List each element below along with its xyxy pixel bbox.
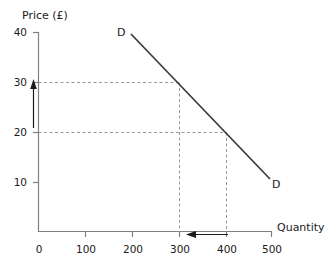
x-axis-title: Quantity xyxy=(277,221,325,234)
y-tick-label-10: 10 xyxy=(5,176,27,188)
x-tick-label-200: 200 xyxy=(118,243,148,255)
y-tick-label-40: 40 xyxy=(5,26,27,38)
x-tick-label-500: 500 xyxy=(257,243,287,255)
y-tick-label-30: 30 xyxy=(5,76,27,88)
demand-curve-label-top: D xyxy=(117,26,125,39)
demand-curve-label-bottom: D xyxy=(272,178,280,191)
x-tick-label-0: 0 xyxy=(24,243,54,255)
x-tick-label-400: 400 xyxy=(212,243,242,255)
x-tick-label-100: 100 xyxy=(71,243,101,255)
y-axis-title: Price (£) xyxy=(22,9,68,22)
demand-curve-chart: Price (£) Quantity 40 30 20 10 0 100 200… xyxy=(0,0,334,266)
demand-curve-line xyxy=(131,34,270,179)
price-increase-arrow-head xyxy=(30,79,37,89)
y-tick-label-20: 20 xyxy=(5,126,27,138)
x-tick-label-300: 300 xyxy=(165,243,195,255)
